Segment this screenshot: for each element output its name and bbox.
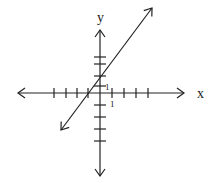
- y-axis-label: y: [97, 10, 104, 25]
- x-axis: [18, 88, 184, 98]
- coordinate-plane: x y 1 1: [0, 0, 220, 183]
- x-unit-label: 1: [110, 99, 115, 109]
- y-axis: [95, 30, 105, 176]
- plotted-line-segment: [61, 8, 152, 130]
- plotted-line: [61, 8, 152, 130]
- y-unit-label: 1: [105, 82, 110, 92]
- x-axis-label: x: [197, 86, 204, 101]
